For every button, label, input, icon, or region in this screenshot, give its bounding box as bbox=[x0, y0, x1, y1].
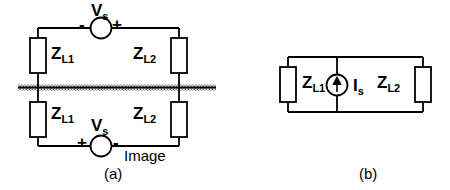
impedance-label-zl1-b: ZL1 bbox=[302, 74, 325, 91]
impedance-box-zl2-bottom bbox=[171, 102, 187, 137]
impedance-label-zl2-top: ZL2 bbox=[133, 45, 156, 62]
voltage-source-label-bottom: Vs bbox=[91, 117, 108, 134]
impedance-box-zl1-bottom bbox=[30, 102, 46, 137]
impedance-label-zl2-bottom: ZL2 bbox=[133, 105, 156, 122]
impedance-box-zl1-b bbox=[280, 67, 296, 102]
voltage-source-circle-bottom bbox=[91, 136, 112, 157]
circuit-drawing-canvas bbox=[0, 0, 450, 190]
voltage-source-terminal-negative-top: - bbox=[79, 16, 85, 33]
voltage-source-terminal-positive-top: + bbox=[112, 16, 122, 33]
impedance-box-zl2-top bbox=[171, 38, 187, 73]
impedance-label-zl1-top: ZL1 bbox=[51, 45, 74, 62]
voltage-source-label-top: Vs bbox=[91, 2, 108, 19]
image-plane-label: Image bbox=[124, 148, 166, 163]
voltage-source-terminal-negative-bottom: - bbox=[113, 134, 119, 151]
figure-circuit-diagram: Vs - + ZL1 ZL2 ZL1 ZL2 Vs + - Image ZL1 … bbox=[0, 0, 450, 190]
caption-b: (b) bbox=[359, 166, 377, 181]
impedance-box-zl1-top bbox=[30, 38, 46, 73]
caption-a: (a) bbox=[104, 166, 122, 181]
impedance-box-zl2-b bbox=[415, 67, 431, 102]
voltage-source-circle-top bbox=[91, 18, 112, 39]
voltage-source-terminal-positive-bottom: + bbox=[77, 134, 87, 151]
impedance-label-zl1-bottom: ZL1 bbox=[51, 105, 74, 122]
impedance-label-zl2-b: ZL2 bbox=[377, 74, 400, 91]
current-source-label: Is bbox=[353, 77, 364, 94]
